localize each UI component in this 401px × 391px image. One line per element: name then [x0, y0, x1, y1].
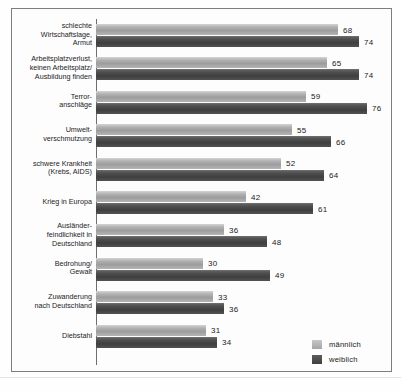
bar-female: 36: [96, 303, 385, 314]
category-label: schwere Krankheit (Krebs, AIDS): [12, 160, 92, 177]
bar-value-label: 64: [329, 171, 338, 180]
bar-group: 3648: [96, 219, 385, 252]
bar-group: 4261: [96, 186, 385, 219]
legend-swatch-weiblich: [312, 355, 322, 364]
bar-group: 3336: [96, 286, 385, 319]
legend-label-maennlich: männlich: [329, 340, 361, 349]
bar-male: 55: [96, 124, 385, 135]
bar-value-label: 66: [336, 137, 345, 146]
legend-label-weiblich: weiblich: [329, 355, 358, 364]
category-label: Umwelt- verschmutzung: [12, 127, 92, 144]
bar-female: 48: [96, 236, 385, 247]
bar-rect: [96, 258, 203, 269]
bar-group: 5264: [96, 153, 385, 186]
category-label-column: schlechte Wirtschaftslage, ArmutArbeitsp…: [12, 19, 92, 365]
bar-value-label: 30: [208, 259, 217, 268]
bar-value-label: 76: [372, 104, 381, 113]
bar-group: 6574: [96, 52, 385, 85]
bar-female: 61: [96, 203, 385, 214]
bar-female: 64: [96, 170, 385, 181]
bar-value-label: 55: [297, 125, 306, 134]
bar-male: 31: [96, 325, 385, 336]
bar-rect: [96, 236, 267, 247]
bar-rect: [96, 24, 338, 35]
bar-value-label: 52: [286, 159, 295, 168]
chart-frame: schlechte Wirtschaftslage, ArmutArbeitsp…: [11, 8, 392, 372]
chart-screenshot: schlechte Wirtschaftslage, ArmutArbeitsp…: [0, 0, 401, 391]
category-label: Zuwanderung nach Deutschland: [12, 294, 92, 311]
bar-value-label: 31: [211, 326, 220, 335]
bar-value-label: 74: [364, 70, 373, 79]
bar-female: 66: [96, 136, 385, 147]
bar-male: 68: [96, 24, 385, 35]
bar-male: 52: [96, 158, 385, 169]
bar-male: 33: [96, 291, 385, 302]
bar-male: 36: [96, 224, 385, 235]
bar-rect: [96, 191, 246, 202]
category-label: Krieg in Europa: [12, 198, 92, 207]
bar-rect: [96, 103, 367, 114]
figure-caption: [0, 381, 401, 390]
bar-group: 5976: [96, 86, 385, 119]
bar-male: 65: [96, 57, 385, 68]
bar-male: 30: [96, 258, 385, 269]
category-label: Ausländer- feindlichkeit in Deutschland: [12, 223, 92, 249]
plot-area: 6874657459765566526442613648304933363134: [96, 19, 385, 367]
bar-rect: [96, 337, 217, 348]
legend-swatch-maennlich: [312, 340, 322, 349]
page-scan-line: [0, 377, 401, 378]
chart-legend: männlich weiblich: [312, 337, 398, 367]
bar-female: 74: [96, 36, 385, 47]
bar-rect: [96, 69, 359, 80]
bar-rect: [96, 325, 206, 336]
category-label: Bedrohung/ Gewalt: [12, 260, 92, 277]
bar-rect: [96, 170, 324, 181]
bar-value-label: 68: [343, 25, 352, 34]
bar-value-label: 49: [275, 271, 284, 280]
bar-rect: [96, 136, 331, 147]
bar-female: 49: [96, 270, 385, 281]
bar-value-label: 59: [311, 92, 320, 101]
bar-male: 59: [96, 91, 385, 102]
bar-value-label: 74: [364, 37, 373, 46]
category-label: schlechte Wirtschaftslage, Armut: [12, 22, 92, 48]
legend-item-maennlich: männlich: [312, 337, 398, 352]
legend-item-weiblich: weiblich: [312, 352, 398, 367]
bar-value-label: 48: [272, 237, 281, 246]
bar-group: 3049: [96, 253, 385, 286]
bar-value-label: 42: [251, 192, 260, 201]
bar-rect: [96, 303, 224, 314]
bar-value-label: 36: [229, 304, 238, 313]
bar-rect: [96, 270, 270, 281]
bar-value-label: 61: [318, 204, 327, 213]
bar-value-label: 34: [222, 338, 231, 347]
bar-value-label: 36: [229, 225, 238, 234]
bar-group: 5566: [96, 119, 385, 152]
bar-rect: [96, 36, 359, 47]
category-label: Diebstahl: [12, 331, 92, 340]
bar-rect: [96, 158, 281, 169]
bar-rect: [96, 224, 224, 235]
bar-group: 6874: [96, 19, 385, 52]
category-label: Terror- anschläge: [12, 93, 92, 110]
bar-male: 42: [96, 191, 385, 202]
category-label: Arbeitsplatzverlust, keinen Arbeitsplatz…: [12, 56, 92, 82]
bar-value-label: 33: [218, 292, 227, 301]
bar-rect: [96, 57, 327, 68]
bar-female: 74: [96, 69, 385, 80]
bar-rect: [96, 124, 292, 135]
bar-female: 76: [96, 103, 385, 114]
bar-rect: [96, 203, 313, 214]
bar-rect: [96, 91, 306, 102]
bar-rect: [96, 291, 213, 302]
bar-value-label: 65: [332, 58, 341, 67]
